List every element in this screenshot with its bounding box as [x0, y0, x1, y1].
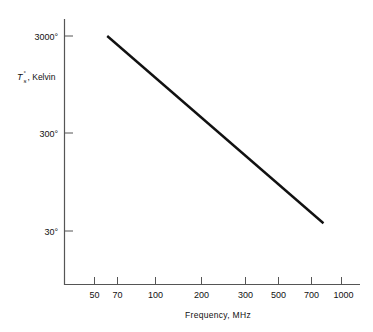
x-tick-label-500: 500 [271, 290, 286, 300]
chart-background [0, 0, 373, 332]
chart-canvas: 3000° 300° 30° T s ° , Kelvin 50 70 100 … [0, 0, 373, 332]
x-axis-title: Frequency, MHz [185, 310, 251, 320]
x-tick-label-700: 700 [304, 290, 319, 300]
y-axis-title-rest: , Kelvin [28, 72, 56, 82]
y-tick-label-3000: 3000° [34, 32, 58, 42]
x-tick-label-1000: 1000 [333, 290, 353, 300]
x-tick-label-200: 200 [194, 290, 209, 300]
x-tick-label-100: 100 [148, 290, 163, 300]
x-tick-label-50: 50 [89, 290, 99, 300]
y-tick-label-30: 30° [44, 227, 58, 237]
x-tick-label-300: 300 [238, 290, 253, 300]
x-tick-label-70: 70 [112, 290, 122, 300]
y-tick-label-300: 300° [39, 129, 58, 139]
y-axis-title-subscript: s [24, 78, 27, 84]
chart-figure: 3000° 300° 30° T s ° , Kelvin 50 70 100 … [0, 0, 373, 332]
